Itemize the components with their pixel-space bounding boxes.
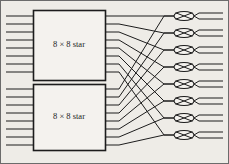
switch-2x2	[174, 97, 194, 106]
switch-2x2	[174, 63, 194, 72]
star-module-label: 8 × 8 star	[53, 39, 85, 49]
star-module-group: 8 × 8 star8 × 8 star	[34, 11, 106, 151]
switch-2x2	[174, 29, 194, 38]
switch-2x2	[174, 46, 194, 55]
star-module-label: 8 × 8 star	[53, 111, 85, 121]
diagram-canvas: 8 × 8 star8 × 8 star	[0, 0, 229, 164]
network-diagram: 8 × 8 star8 × 8 star	[0, 0, 229, 164]
switch-2x2	[174, 80, 194, 89]
switch-2x2	[174, 114, 194, 123]
switch-2x2	[174, 131, 194, 140]
switch-2x2	[174, 12, 194, 21]
